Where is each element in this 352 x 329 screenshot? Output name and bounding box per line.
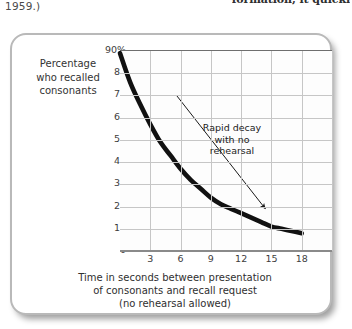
annotation-label: Rapid decaywith norehearsal bbox=[193, 122, 271, 157]
x-axis-line bbox=[120, 250, 332, 252]
gridline-vertical bbox=[271, 51, 272, 251]
gridline-vertical bbox=[302, 51, 303, 251]
gridline-horizontal bbox=[120, 95, 332, 96]
x-tick-label: 12 bbox=[235, 253, 247, 264]
page-text-left: 1959.) bbox=[5, 0, 40, 12]
x-axis-caption: Time in seconds between presentationof c… bbox=[30, 271, 320, 310]
x-axis-tick-labels: 369121518 bbox=[120, 253, 332, 267]
page-text-right: formation, it quickl bbox=[232, 0, 350, 5]
gridline-horizontal bbox=[120, 162, 332, 163]
gridline-horizontal bbox=[120, 184, 332, 185]
x-tick-label: 6 bbox=[178, 253, 184, 264]
gridline-horizontal bbox=[120, 73, 332, 74]
x-tick-label: 15 bbox=[265, 253, 277, 264]
gridline-horizontal bbox=[120, 207, 332, 208]
x-tick-label: 18 bbox=[296, 253, 308, 264]
gridline-horizontal bbox=[120, 118, 332, 119]
x-tick-label: 3 bbox=[147, 253, 153, 264]
gridline-horizontal bbox=[120, 229, 332, 230]
figure-frame: Percentagewho recalledconsonants 0102030… bbox=[10, 33, 332, 315]
gridline-vertical bbox=[150, 51, 151, 251]
x-tick-label: 9 bbox=[208, 253, 214, 264]
gridline-vertical bbox=[181, 51, 182, 251]
gridline-vertical bbox=[332, 51, 333, 251]
